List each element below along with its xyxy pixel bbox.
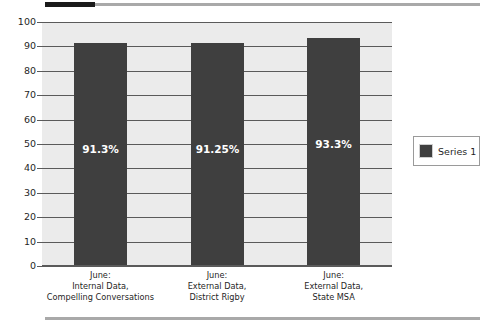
y-axis-tick-mark [37, 266, 43, 267]
y-axis-tick-label: 60 [6, 115, 36, 125]
bar-value-label: 93.3% [295, 138, 372, 150]
y-axis-tick-label: 70 [6, 90, 36, 100]
y-axis-tick-mark [37, 95, 43, 96]
chart-legend[interactable]: Series 1 [413, 136, 480, 166]
plot-area: 91.3%91.25%93.3% [42, 22, 392, 266]
gridline [42, 22, 392, 23]
y-axis-tick-label: 30 [6, 188, 36, 198]
top-rule-dark-segment [45, 2, 95, 7]
y-axis-tick-mark [37, 144, 43, 145]
gridline [42, 266, 392, 267]
bar-value-label: 91.25% [179, 143, 256, 155]
y-axis-tick-mark [37, 120, 43, 121]
legend-swatch-series-1 [419, 144, 433, 158]
bar-value-label: 91.3% [62, 143, 139, 155]
y-axis-tick-label: 20 [6, 212, 36, 222]
x-axis-category-labels: June:Internal Data,Compelling Conversati… [42, 270, 392, 314]
y-axis-tick-label: 90 [6, 41, 36, 51]
y-axis-tick-mark [37, 71, 43, 72]
x-axis-category-label-line: June: [254, 270, 414, 281]
y-axis-tick-label: 80 [6, 66, 36, 76]
y-axis-tick-mark [37, 22, 43, 23]
x-axis-category-label-line: State MSA [254, 292, 414, 303]
y-axis-tick-mark [37, 193, 43, 194]
y-axis-tick-mark [37, 217, 43, 218]
x-axis-category-label-line: External Data, [254, 281, 414, 292]
y-axis-tick-label: 100 [6, 17, 36, 27]
legend-label-series-1: Series 1 [438, 146, 476, 157]
bar[interactable] [307, 38, 360, 266]
y-axis-tick-label: 40 [6, 163, 36, 173]
chart-page: 91.3%91.25%93.3% 1009080706050403020100 … [0, 0, 496, 330]
y-axis-tick-mark [37, 46, 43, 47]
top-rule-light-segment [95, 3, 480, 6]
axis-baseline [42, 265, 392, 266]
y-axis-tick-mark [37, 168, 43, 169]
y-axis-tick-label: 50 [6, 139, 36, 149]
x-axis-category-label: June:External Data,State MSA [254, 270, 414, 303]
y-axis-tick-mark [37, 242, 43, 243]
y-axis-tick-label: 10 [6, 237, 36, 247]
bottom-rule [45, 317, 480, 320]
